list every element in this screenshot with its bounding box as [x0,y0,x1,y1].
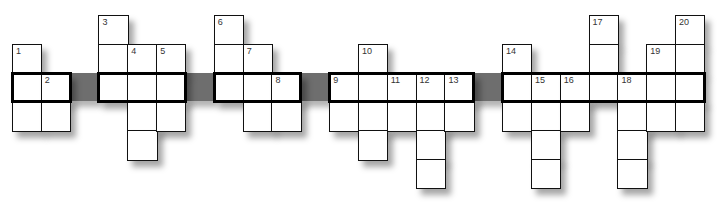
clue-number: 11 [391,76,400,85]
crossword-cell[interactable]: 10 [358,44,388,74]
crossword-cell[interactable]: 8 [271,73,301,103]
crossword-cell[interactable] [617,159,647,189]
crossword-cell[interactable] [416,130,446,160]
crossword-cell[interactable] [12,101,42,131]
crossword-cell[interactable] [416,101,446,131]
crossword-cell[interactable] [617,101,647,131]
crossword-cell[interactable]: 17 [589,15,619,45]
clue-number: 7 [247,47,252,56]
crossword-cell[interactable] [675,73,705,103]
crossword-cell[interactable] [243,73,273,103]
black-square [473,73,502,102]
crossword-cell[interactable] [358,101,388,131]
clue-number: 5 [160,47,165,56]
clue-number: 10 [362,47,372,56]
crossword-cell[interactable] [329,101,359,131]
clue-number: 16 [564,76,574,85]
crossword-cell[interactable] [416,159,446,189]
crossword-cell[interactable] [214,44,244,74]
crossword-cell[interactable]: 16 [560,73,590,103]
crossword-cell[interactable] [243,101,273,131]
crossword-cell[interactable]: 3 [98,15,128,45]
crossword-cell[interactable]: 11 [387,73,417,103]
crossword-cell[interactable] [589,73,619,103]
clue-number: 3 [102,18,107,27]
crossword-cell[interactable] [358,73,388,103]
crossword-cell[interactable] [98,73,128,103]
crossword-cell[interactable]: 5 [156,44,186,74]
clue-number: 8 [275,76,280,85]
crossword-cell[interactable] [127,73,157,103]
crossword-cell[interactable] [675,101,705,131]
black-square [185,73,214,102]
crossword-cell[interactable] [646,73,676,103]
crossword-cell[interactable] [214,73,244,103]
crossword-cell[interactable] [358,130,388,160]
crossword-cell[interactable]: 9 [329,73,359,103]
clue-number: 12 [420,76,430,85]
clue-number: 4 [131,47,136,56]
clue-number: 17 [593,18,603,27]
crossword-cell[interactable] [156,101,186,131]
crossword-cell[interactable]: 19 [646,44,676,74]
crossword-cell[interactable] [127,130,157,160]
crossword-cell[interactable]: 1 [12,44,42,74]
black-square [70,73,99,102]
crossword-cell[interactable] [156,73,186,103]
crossword-cell[interactable]: 13 [444,73,474,103]
crossword-cell[interactable] [502,101,532,131]
crossword-cell[interactable]: 12 [416,73,446,103]
crossword-cell[interactable] [271,101,301,131]
crossword-cell[interactable] [444,101,474,131]
clue-number: 20 [679,18,689,27]
crossword-cell[interactable] [12,73,42,103]
clue-number: 1 [16,47,21,56]
clue-number: 14 [506,47,516,56]
clue-number: 13 [448,76,458,85]
crossword-cell[interactable] [98,44,128,74]
crossword-cell[interactable] [127,101,157,131]
crossword-cell[interactable] [531,130,561,160]
clue-number: 6 [218,18,223,27]
clue-number: 15 [535,76,545,85]
crossword-cell[interactable] [675,44,705,74]
clue-number: 9 [333,76,338,85]
clue-number: 2 [45,76,50,85]
crossword-cell[interactable] [617,130,647,160]
crossword-cell[interactable]: 15 [531,73,561,103]
crossword-cell[interactable] [646,101,676,131]
crossword-cell[interactable]: 6 [214,15,244,45]
crossword-cell[interactable] [41,101,71,131]
crossword-cell[interactable] [502,73,532,103]
clue-number: 19 [650,47,660,56]
crossword-cell[interactable] [531,101,561,131]
crossword-cell[interactable]: 7 [243,44,273,74]
black-square [300,73,329,102]
crossword-cell[interactable]: 14 [502,44,532,74]
crossword-cell[interactable]: 4 [127,44,157,74]
crossword-cell[interactable] [560,101,590,131]
crossword-cell[interactable] [531,159,561,189]
crossword-cell[interactable]: 18 [617,73,647,103]
crossword-cell[interactable] [589,44,619,74]
clue-number: 18 [621,76,631,85]
crossword-grid: 1234567891011121314151617181920 [0,0,720,208]
crossword-cell[interactable] [387,101,417,131]
crossword-cell[interactable]: 2 [41,73,71,103]
crossword-cell[interactable]: 20 [675,15,705,45]
